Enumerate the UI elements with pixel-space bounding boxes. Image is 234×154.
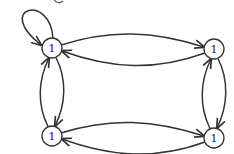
node-br: 1 (204, 128, 224, 148)
edge-br-to-bl (62, 139, 205, 154)
edge-tr-to-tl (62, 51, 205, 66)
edge-tr-to-br (217, 59, 226, 129)
edge-bl-to-br (61, 122, 204, 136)
nodes-layer: 1111 (42, 38, 224, 148)
edge-br-to-tr (202, 59, 211, 129)
edge-tl-to-tr (61, 34, 204, 47)
node-label: 1 (211, 132, 218, 145)
node-bl: 1 (42, 126, 62, 146)
node-tl: 1 (42, 38, 62, 58)
edge-bl-to-tl (40, 58, 49, 127)
node-label: 1 (211, 43, 218, 56)
node-label: 1 (49, 130, 56, 143)
graph-diagram: 1111 (0, 0, 234, 154)
edge-tl-to-bl (55, 58, 64, 127)
node-label: 1 (49, 42, 56, 55)
node-tr: 1 (204, 39, 224, 59)
cutoff-text-fragment (54, 0, 63, 3)
